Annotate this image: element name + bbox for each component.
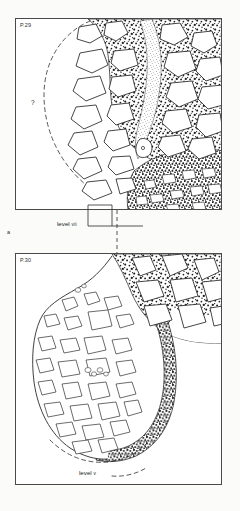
annotation-level-vii: level vii (57, 220, 77, 227)
annotation-level-vii-roman: vii (71, 222, 76, 227)
figure-part-label-a: a (7, 229, 10, 235)
annotation-level-v-text: level (79, 469, 93, 476)
panel-p30-drawing (16, 254, 221, 484)
section-panel-p29: P.29 (15, 18, 222, 210)
panel-label-p30: P.30 (20, 257, 31, 263)
panel-label-p29: P.29 (20, 22, 31, 28)
annotation-level-v: level v (79, 469, 96, 476)
panel-p29-drawing (16, 19, 221, 209)
uncertainty-query-marker: ? (31, 99, 35, 106)
annotation-level-vii-text: level (57, 220, 71, 227)
section-panel-p30: P.30 (15, 253, 222, 485)
figure-plate: P.29 level vii a (0, 0, 240, 511)
annotation-level-v-roman: v (93, 471, 96, 476)
